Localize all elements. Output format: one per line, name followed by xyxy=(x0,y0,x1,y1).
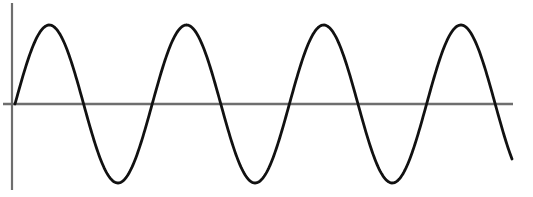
sine-wave-chart xyxy=(0,0,533,197)
